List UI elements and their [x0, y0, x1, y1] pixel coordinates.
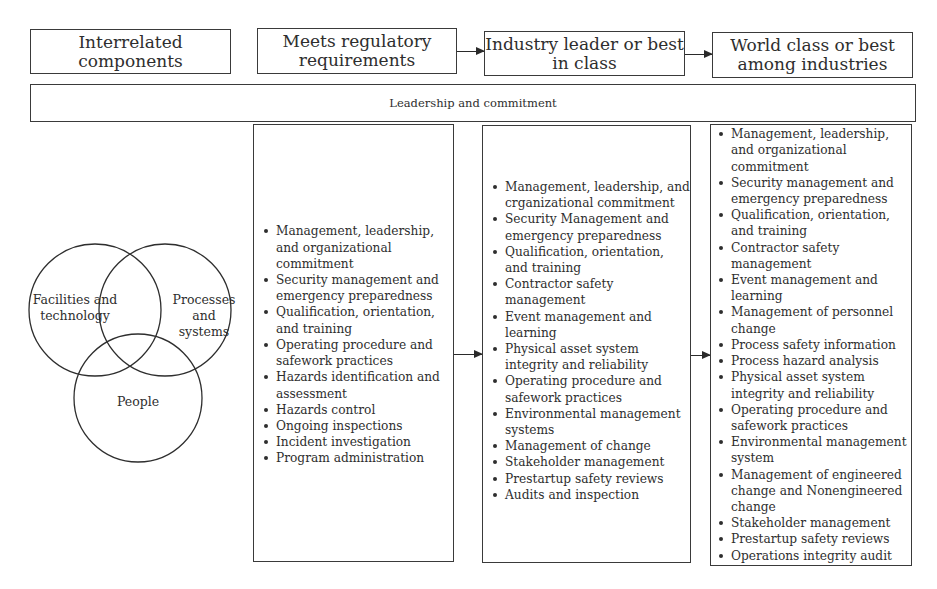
venn-label-people: People: [98, 394, 178, 410]
list-item: Hazards control: [262, 402, 453, 418]
list-item: Management, leadership, and organization…: [262, 223, 453, 272]
stage-regulatory-line2: requirements: [283, 51, 432, 70]
world-class-elements-list: Management, leadership, and organization…: [711, 126, 911, 563]
list-item: Hazards identification and assessment: [262, 369, 453, 401]
interrelated-components-header: Interrelated components: [30, 29, 231, 74]
stage-regulatory-line1: Meets regulatory: [283, 32, 432, 51]
industry-leader-elements-list: Management, leadership, and crganization…: [483, 179, 690, 503]
list-item: Prestartup safety reviews: [717, 531, 911, 547]
venn-label-facilities: Facilities and technology: [32, 292, 118, 324]
stage-industry-leader-header: Industry leader or best in class: [484, 31, 685, 76]
list-item: Operating procedure and safework practic…: [717, 402, 911, 434]
stage-regulatory-header: Meets regulatory requirements: [257, 28, 457, 74]
list-item: Process safety information: [717, 337, 911, 353]
list-item: Ongoing inspections: [262, 418, 453, 434]
stage-industry-leader-line1: Industry leader or best: [485, 35, 684, 54]
list-item: Program administration: [262, 450, 453, 466]
list-item: Stakeholder management: [717, 515, 911, 531]
list-item: Security Management and emergency prepar…: [491, 211, 690, 243]
regulatory-elements-list: Management, leadership, and organization…: [254, 223, 453, 466]
world-class-elements-box: Management, leadership, and organization…: [710, 124, 912, 566]
list-item: Prestartup safety reviews: [491, 471, 690, 487]
stage-arrow-1: [457, 51, 484, 52]
list-item: Physical asset system integrity and reli…: [491, 341, 690, 373]
list-item: Qualification, orientation, and training: [262, 304, 453, 336]
column-arrow-2: [691, 355, 710, 356]
list-item: Operating procedure and safework practic…: [491, 373, 690, 405]
stage-world-class-header: World class or best among industries: [712, 32, 913, 78]
list-item: Management of change: [491, 438, 690, 454]
list-item: Environmental management system: [717, 434, 911, 466]
list-item: Security management and emergency prepar…: [262, 272, 453, 304]
list-item: Stakeholder management: [491, 454, 690, 470]
leadership-commitment-label: Leadership and commitment: [389, 96, 556, 110]
list-item: Management, leadership, and organization…: [717, 126, 911, 175]
leadership-commitment-bar: Leadership and commitment: [30, 84, 916, 122]
list-item: Contractor safety management: [717, 240, 911, 272]
list-item: Qualification, orientation, and training: [717, 207, 911, 239]
list-item: Event management and learning: [491, 309, 690, 341]
list-item: Operating procedure and safework practic…: [262, 337, 453, 369]
stage-world-class-line2: among industries: [730, 55, 895, 74]
list-item: Security management and emergency prepar…: [717, 175, 911, 207]
list-item: Process hazard analysis: [717, 353, 911, 369]
list-item: Audits and inspection: [491, 487, 690, 503]
list-item: Management of personnel change: [717, 304, 911, 336]
list-item: Incident investigation: [262, 434, 453, 450]
list-item: Operations integrity audit: [717, 548, 911, 564]
stage-industry-leader-line2: in class: [485, 54, 684, 73]
list-item: Environmental management systems: [491, 406, 690, 438]
industry-leader-elements-box: Management, leadership, and crganization…: [482, 125, 691, 563]
column-arrow-1: [454, 354, 482, 355]
interrelated-components-venn: Facilities and technology Processes and …: [0, 230, 260, 480]
list-item: Contractor safety management: [491, 276, 690, 308]
regulatory-elements-box: Management, leadership, and organization…: [253, 124, 454, 562]
stage-world-class-line1: World class or best: [730, 36, 895, 55]
venn-label-processes: Processes and systems: [160, 292, 248, 340]
list-item: Event management and learning: [717, 272, 911, 304]
venn-circles: [0, 230, 260, 480]
list-item: Management, leadership, and crganization…: [491, 179, 690, 211]
interrelated-components-label: Interrelated components: [31, 33, 230, 71]
list-item: Qualification, orientation, and training: [491, 244, 690, 276]
list-item: Physical asset system integrity and reli…: [717, 369, 911, 401]
stage-arrow-2: [685, 54, 712, 55]
list-item: Management of engineered change and None…: [717, 467, 911, 516]
